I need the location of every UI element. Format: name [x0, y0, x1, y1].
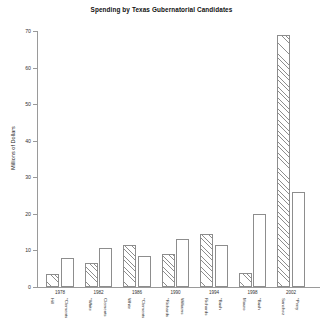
x-axis-year-label: 1978	[55, 290, 65, 295]
x-axis-candidate-label: *Bush	[218, 298, 223, 310]
y-axis-tick-label: 10	[0, 248, 31, 254]
bar	[99, 248, 112, 287]
x-axis-candidate-label: *Clements	[64, 298, 69, 318]
y-axis-tick-label: 20	[0, 211, 31, 217]
bar	[277, 35, 290, 287]
x-axis-candidate-label: Williams	[180, 298, 185, 314]
x-axis-candidate-label: *Richards	[165, 298, 170, 317]
bar	[46, 274, 59, 287]
bar	[61, 258, 74, 287]
x-axis-candidate-label: Hill	[50, 298, 55, 304]
y-axis-tick-label: 50	[0, 102, 31, 108]
bar	[239, 273, 252, 287]
bar	[162, 254, 175, 287]
x-axis-candidate-label: White	[127, 298, 132, 309]
chart-title: Spending by Texas Gubernatorial Candidat…	[0, 6, 323, 13]
y-axis-tick	[33, 141, 37, 142]
x-axis-year-label: 1994	[209, 290, 219, 295]
x-axis-candidate-label: Mauro	[242, 298, 247, 310]
y-axis-tick-label: 60	[0, 65, 31, 71]
x-axis-line	[37, 287, 320, 288]
y-axis-tick-label: 70	[0, 28, 31, 34]
bar	[253, 214, 266, 287]
y-axis-tick-label: 40	[0, 138, 31, 144]
bar	[176, 239, 189, 287]
x-axis-candidate-label: *Perry	[295, 298, 300, 310]
chart-container: Spending by Texas Gubernatorial Candidat…	[0, 0, 323, 329]
bar	[123, 245, 136, 287]
x-axis-candidate-label: Richards	[204, 298, 209, 315]
y-axis-tick	[33, 31, 37, 32]
x-axis-year-label: 1998	[247, 290, 257, 295]
y-axis-tick-label: 30	[0, 175, 31, 181]
bar	[200, 234, 213, 287]
x-axis-candidate-label: Clements	[103, 298, 108, 317]
x-axis-year-label: 1982	[93, 290, 103, 295]
y-axis-tick-label: 0	[0, 284, 31, 290]
bar	[215, 245, 228, 287]
bar	[138, 256, 151, 287]
x-axis-candidate-label: *Clements	[141, 298, 146, 318]
y-axis-tick	[33, 287, 37, 288]
bar	[85, 263, 98, 287]
y-axis-tick	[33, 104, 37, 105]
x-axis-year-label: 2002	[286, 290, 296, 295]
x-axis-candidate-label: *White	[88, 298, 93, 311]
plot-area	[38, 31, 320, 287]
y-axis-tick	[33, 250, 37, 251]
bar	[292, 192, 305, 287]
y-axis-tick	[33, 68, 37, 69]
y-axis-tick	[33, 177, 37, 178]
y-axis-tick	[33, 214, 37, 215]
x-axis-year-label: 1986	[132, 290, 142, 295]
x-axis-year-label: 1990	[170, 290, 180, 295]
x-axis-candidate-label: *Bush	[257, 298, 262, 310]
x-axis-candidate-label: Sanchez	[281, 298, 286, 315]
bars-layer	[38, 31, 320, 287]
